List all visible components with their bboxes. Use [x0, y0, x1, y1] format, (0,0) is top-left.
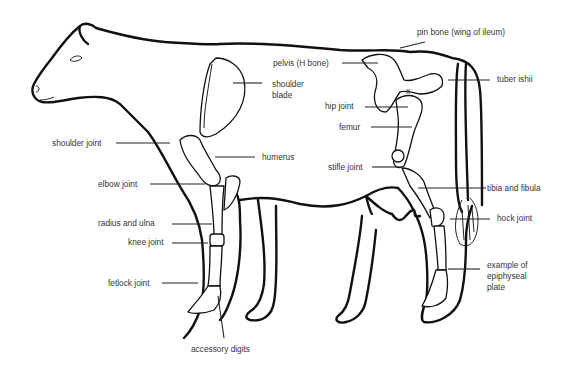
hind-cannon-bone [434, 226, 446, 270]
label-knee-joint: knee joint [128, 237, 164, 248]
label-humerus: humerus [262, 152, 294, 163]
label-pin-bone: pin bone (wing of ileum) [417, 27, 505, 38]
cow-far-hind-leg [336, 216, 376, 323]
label-accessory-digits: accessory digits [191, 344, 250, 355]
olecranon [224, 176, 240, 210]
humerus-bone [180, 136, 220, 187]
carpal-bones [210, 234, 224, 246]
label-pelvis: pelvis (H bone) [273, 58, 329, 69]
cow-mouth [40, 97, 54, 100]
label-epiphyseal-plate: example of epiphyseal plate [487, 260, 528, 293]
label-femur: femur [339, 122, 360, 133]
label-stifle-joint: stifle joint [328, 162, 363, 173]
label-shoulder-joint: shoulder joint [52, 138, 101, 149]
patella [392, 150, 404, 162]
hind-hoof [422, 270, 448, 307]
label-x-mark: x [406, 86, 410, 97]
label-tibia-fibula: tibia and fibula [487, 183, 541, 194]
cow-far-front-leg [246, 200, 276, 320]
label-tuber-ishii: tuber ishii [497, 74, 533, 85]
label-fetlock-joint: fetlock joint [108, 278, 150, 289]
cow-nostril [36, 86, 39, 92]
cow-head-outline [32, 24, 220, 132]
hock-bones [430, 208, 444, 227]
cow-eye [70, 56, 82, 61]
cow-illustration [0, 0, 571, 371]
radius-ulna-bone [210, 186, 224, 236]
cow-skeleton-diagram: pin bone (wing of ileum) pelvis (H bone)… [0, 0, 571, 371]
label-elbow-joint: elbow joint [98, 179, 137, 190]
label-radius-ulna: radius and ulna [98, 218, 155, 229]
label-hip-joint: hip joint [325, 101, 354, 112]
cow-tail [456, 64, 468, 212]
label-shoulder-blade: shoulder blade [272, 79, 304, 101]
label-hock-joint: hock joint [497, 213, 532, 224]
front-cannon-bone [208, 246, 222, 286]
